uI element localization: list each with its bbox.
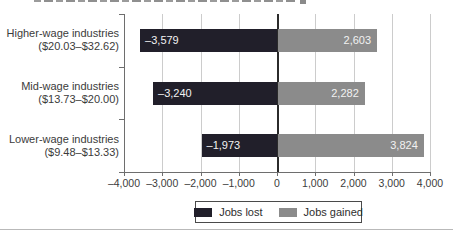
legend-item-jobs-lost: Jobs lost	[194, 206, 262, 218]
category-wage-range: ($9.48–$13.33)	[9, 146, 119, 159]
bar-jobs-gained: 2,282	[278, 82, 365, 105]
bar-jobs-gained: 2,603	[278, 29, 378, 52]
legend-label: Jobs gained	[304, 206, 363, 218]
cropped-title-text-remnant	[34, 0, 296, 2]
legend: Jobs lostJobs gained	[195, 201, 362, 223]
bar-value-label: –3,579	[145, 29, 179, 52]
category-name: Mid-wage industries	[21, 80, 119, 93]
legend-item-jobs-gained: Jobs gained	[279, 206, 363, 218]
bar-jobs-lost: –1,973	[202, 134, 277, 157]
x-axis-line	[124, 172, 431, 173]
gridline	[430, 14, 431, 172]
category-label: Higher-wage industries($20.03–$32.62)	[7, 27, 120, 53]
category-name: Higher-wage industries	[7, 27, 120, 40]
bar-jobs-gained: 3,824	[278, 134, 424, 157]
bar-jobs-lost: –3,240	[153, 82, 277, 105]
category-label: Mid-wage industries($13.73–$20.00)	[21, 80, 119, 106]
bar-value-label: 2,603	[344, 29, 372, 52]
bar-value-label: 3,824	[390, 134, 418, 157]
category-name: Lower-wage industries	[9, 133, 119, 146]
legend-label: Jobs lost	[219, 206, 262, 218]
category-label: Lower-wage industries($9.48–$13.33)	[9, 133, 119, 159]
category-wage-range: ($20.03–$32.62)	[7, 40, 120, 53]
y-axis-tick	[119, 67, 124, 68]
legend-swatch-icon	[279, 208, 297, 217]
x-tick-label: 4,000	[407, 177, 453, 189]
bar-jobs-lost: –3,579	[140, 29, 277, 52]
y-axis-tick	[119, 119, 124, 120]
bottom-divider-line	[0, 229, 453, 230]
y-axis-line	[124, 14, 125, 172]
y-axis-tick	[119, 14, 124, 15]
bar-value-label: 2,282	[331, 82, 359, 105]
bar-chart-figure: Jobs lostJobs gained –4,000–3,000–2,000–…	[0, 0, 453, 236]
bar-value-label: –3,240	[158, 82, 192, 105]
legend-swatch-icon	[194, 208, 212, 217]
bar-value-label: –1,973	[207, 134, 241, 157]
category-wage-range: ($13.73–$20.00)	[21, 93, 119, 106]
